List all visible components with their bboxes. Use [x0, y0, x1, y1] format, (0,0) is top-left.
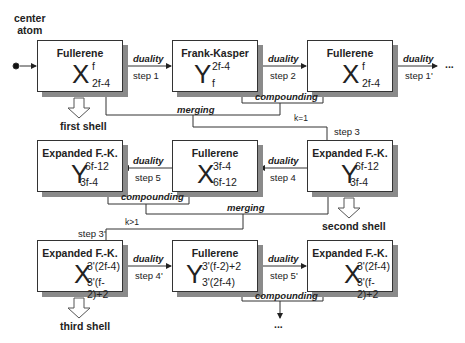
box-superscript: 2f-4: [212, 60, 230, 72]
duality-label-step4p: duality: [133, 253, 164, 264]
step4p-label: step 4': [135, 270, 163, 281]
step1-label: step 1: [133, 70, 159, 81]
duality-label-step4: duality: [268, 155, 299, 166]
box-superscript: 3'(f-2)+2: [202, 260, 241, 272]
box-title: Fullerene: [308, 47, 392, 59]
step5-label: step 5: [135, 172, 161, 183]
compounding-label-2: compounding: [121, 191, 184, 202]
box-superscript: 3'(2f-4): [357, 260, 390, 272]
box-superscript: f: [92, 60, 95, 72]
compounding-label-3: compounding: [255, 290, 318, 301]
box-title: Fullerene: [38, 47, 122, 59]
box-symbol: Y: [194, 61, 211, 87]
first-shell-label: first shell: [60, 120, 107, 132]
box-fullerene-4: Fullerene Y 3'(f-2)+2 3'(2f-4): [172, 240, 258, 292]
step5p-label: step 5': [270, 270, 298, 281]
box-superscript: 3f-4: [213, 160, 231, 172]
box-subscript: 3'(2f-4): [202, 276, 235, 288]
step4-label: step 4: [270, 172, 296, 183]
box-subscript: 2f-4: [362, 77, 380, 89]
box-fullerene-2: Fullerene X f 2f-4: [307, 40, 393, 92]
duality-label-step2: duality: [268, 53, 299, 64]
center-atom-label-line2: atom: [14, 24, 46, 36]
box-expanded-fk-3: Expanded F.-K. X 3'(2f-4) 3'(f-2)+2: [37, 240, 123, 292]
third-shell-arrow-icon: [68, 298, 90, 318]
duality-label-step1p: duality: [403, 53, 434, 64]
kgt1-label: k>1: [125, 217, 139, 227]
box-expanded-fk-4: Expanded F.-K. X 3'(2f-4) 3'(f-2)+2: [307, 240, 393, 292]
box-fullerene-3: Fullerene X 3f-4 6f-12: [172, 140, 258, 192]
box-symbol: X: [197, 161, 214, 187]
k1-label: k=1: [294, 113, 308, 123]
box-symbol: X: [72, 61, 89, 87]
box-superscript: 3'(2f-4): [87, 260, 120, 272]
box-expanded-fk-1: Expanded F.-K. Y 6f-12 3f-4: [37, 140, 123, 192]
second-shell-arrow-icon: [338, 198, 360, 218]
box-superscript: f: [362, 60, 365, 72]
box-subscript: 3f-4: [350, 176, 368, 188]
box-superscript: 6f-12: [85, 160, 109, 172]
box-symbol: X: [342, 61, 359, 87]
step3-label: step 3: [334, 126, 360, 137]
box-title: Expanded F.-K.: [38, 147, 122, 159]
box-subscript: 3'(f-2)+2: [357, 276, 392, 300]
box-subscript: 2f-4: [92, 77, 110, 89]
box-title: Fullerene: [173, 147, 257, 159]
box-subscript: 3f-4: [80, 176, 98, 188]
box-superscript: 6f-12: [355, 160, 379, 172]
first-shell-arrow-icon: [68, 98, 90, 118]
box-fullerene-1: Fullerene X f 2f-4: [37, 40, 123, 92]
box-title: Fullerene: [173, 247, 257, 259]
center-atom-dot: [13, 63, 19, 69]
box-title: Expanded F.-K.: [308, 147, 392, 159]
box-title: Expanded F.-K.: [38, 247, 122, 259]
ellipsis-bottom: ...: [274, 318, 283, 330]
merging-label-1: merging: [177, 104, 214, 115]
compounding-label-1: compounding: [255, 91, 318, 102]
box-subscript: 6f-12: [213, 176, 237, 188]
duality-label-step5p: duality: [268, 253, 299, 264]
box-symbol: Y: [186, 261, 203, 287]
ellipsis-right: ...: [445, 58, 454, 70]
merging-label-2: merging: [227, 202, 264, 213]
step2-label: step 2: [270, 70, 296, 81]
second-shell-label: second shell: [322, 220, 386, 232]
box-subscript: 3'(f-2)+2: [87, 276, 122, 300]
third-shell-label: third shell: [60, 320, 110, 332]
box-frank-kasper: Frank-Kasper Y 2f-4 f: [172, 40, 258, 92]
duality-label-step1: duality: [133, 53, 164, 64]
box-expanded-fk-2: Expanded F.-K. Y 6f-12 3f-4: [307, 140, 393, 192]
center-atom-label-line1: center: [14, 12, 46, 24]
box-subscript: f: [212, 77, 215, 89]
duality-label-step5: duality: [133, 155, 164, 166]
step1p-label: step 1': [405, 70, 433, 81]
box-title: Frank-Kasper: [173, 47, 257, 59]
box-title: Expanded F.-K.: [308, 247, 392, 259]
center-atom-label: center atom: [14, 12, 46, 36]
step3p-label: step 3': [78, 228, 106, 239]
